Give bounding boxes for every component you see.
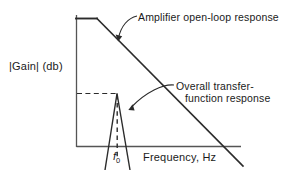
open-loop-leader-line <box>119 16 138 38</box>
f0-subscript: 0 <box>116 156 120 165</box>
open-loop-annotation-label: Amplifier open-loop response <box>138 11 279 23</box>
y-axis-label: |Gain| (db) <box>9 60 63 73</box>
figure-container: |Gain| (db) Frequency, Hz f0 Amplifier o… <box>0 0 294 175</box>
transfer-annotation-line1: Overall transfer- <box>176 80 254 92</box>
transfer-annotation-line2: function response <box>176 92 270 104</box>
x-axis-label: Frequency, Hz <box>143 151 216 164</box>
transfer-leader-line <box>132 85 175 107</box>
center-frequency-marker-label: f0 <box>113 150 120 166</box>
transfer-function-annotation-label: Overall transfer-function response <box>176 80 270 104</box>
